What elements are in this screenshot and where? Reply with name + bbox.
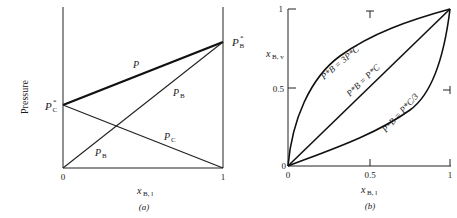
panel-b-x-tick-0: 0 bbox=[286, 170, 291, 180]
panel-b-x-tick-05: 0.5 bbox=[364, 170, 376, 180]
panel-b-x-tick-1: 1 bbox=[448, 170, 453, 180]
panel-b-caption: (b) bbox=[365, 201, 376, 211]
svg-text:P: P bbox=[172, 87, 179, 98]
total-pressure-line bbox=[63, 42, 223, 105]
panel-a: Pressure P * C P * B P P B P C P B bbox=[19, 7, 245, 212]
svg-text:B, l: B, l bbox=[143, 190, 153, 198]
panel-b-y-tick-05: 0.5 bbox=[273, 84, 285, 94]
panel-b: 1 0.5 0 x B, v 0 0.5 1 x B, l (b) P*B = … bbox=[265, 4, 452, 211]
svg-text:B: B bbox=[102, 152, 107, 160]
partial-pressure-b-label-lower: P B bbox=[94, 147, 107, 160]
figure: Pressure P * C P * B P P B P C P B bbox=[0, 0, 457, 218]
svg-text:B: B bbox=[180, 92, 185, 100]
svg-text:P: P bbox=[231, 36, 239, 48]
svg-text:B: B bbox=[240, 42, 245, 50]
panel-a-x-axis-label: x B, l bbox=[136, 185, 153, 198]
svg-text:x: x bbox=[265, 48, 271, 59]
panel-a-x-tick-1: 1 bbox=[221, 172, 226, 182]
curve-ratio-one-third-label: P*B = P*C/3 bbox=[379, 91, 420, 135]
panel-b-y-axis-label: x B, v bbox=[265, 48, 284, 61]
svg-text:*: * bbox=[53, 98, 57, 106]
panel-b-right-tick-mark bbox=[443, 86, 450, 94]
panel-a-x-tick-0: 0 bbox=[61, 172, 66, 182]
svg-text:C: C bbox=[53, 106, 58, 114]
partial-pressure-b-label-upper: P B bbox=[172, 87, 185, 100]
svg-text:P: P bbox=[44, 100, 52, 112]
panel-a-caption: (a) bbox=[139, 202, 150, 212]
panel-b-top-tick-mark bbox=[366, 11, 374, 18]
partial-pressure-b-line bbox=[63, 42, 223, 168]
svg-text:P: P bbox=[94, 147, 101, 158]
pb-star-label: P * B bbox=[231, 34, 245, 50]
curve-ratio-3-label: P*B = 3P*C bbox=[318, 43, 362, 82]
panel-b-x-axis-label: x B, l bbox=[360, 184, 377, 197]
svg-text:C: C bbox=[171, 136, 176, 144]
svg-text:x: x bbox=[360, 184, 366, 195]
svg-text:x: x bbox=[136, 185, 142, 196]
pc-star-label: P * C bbox=[44, 98, 58, 114]
svg-text:B, v: B, v bbox=[272, 53, 284, 61]
panel-a-y-axis-label: Pressure bbox=[19, 80, 30, 114]
svg-text:P: P bbox=[163, 131, 170, 142]
svg-text:B, l: B, l bbox=[367, 189, 377, 197]
partial-pressure-c-line bbox=[63, 105, 223, 168]
panel-b-y-tick-1: 1 bbox=[279, 4, 284, 14]
svg-text:*: * bbox=[240, 34, 244, 42]
partial-pressure-c-label: P C bbox=[163, 131, 176, 144]
total-pressure-label: P bbox=[132, 59, 139, 70]
